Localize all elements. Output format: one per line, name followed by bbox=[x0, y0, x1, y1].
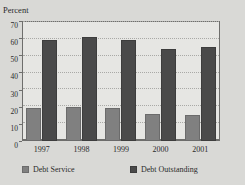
bar-group bbox=[22, 21, 62, 141]
bar bbox=[105, 108, 120, 141]
bar bbox=[185, 115, 200, 141]
bar bbox=[161, 49, 176, 141]
cropped-title bbox=[0, 0, 245, 2]
bar bbox=[145, 114, 160, 141]
x-tick-label: 1999 bbox=[101, 145, 141, 154]
y-axis-title: Percent bbox=[3, 5, 29, 15]
legend-label: Debt Service bbox=[33, 165, 75, 174]
legend-item: Debt Outstanding bbox=[130, 165, 198, 174]
legend-label: Debt Outstanding bbox=[141, 165, 198, 174]
x-axis-tick-labels: 19971998199920002001 bbox=[22, 145, 220, 154]
bar bbox=[201, 47, 216, 141]
chart-legend: Debt ServiceDebt Outstanding bbox=[22, 165, 232, 174]
bar-group bbox=[101, 21, 141, 141]
bar bbox=[82, 37, 97, 141]
legend-swatch-icon bbox=[22, 166, 29, 173]
bar-group bbox=[180, 21, 220, 141]
bar-groups bbox=[22, 21, 220, 141]
x-tick-label: 1998 bbox=[62, 145, 102, 154]
bar-group bbox=[141, 21, 181, 141]
bar bbox=[42, 40, 57, 141]
legend-swatch-icon bbox=[130, 166, 137, 173]
bar bbox=[66, 107, 81, 141]
chart-figure: Percent 010203040506070 1997199819992000… bbox=[0, 0, 245, 185]
x-tick-label: 2001 bbox=[180, 145, 220, 154]
legend-item: Debt Service bbox=[22, 165, 130, 174]
bar bbox=[121, 40, 136, 141]
y-axis-tick-labels: 010203040506070 bbox=[0, 21, 22, 141]
x-tick-label: 2000 bbox=[141, 145, 181, 154]
bar-group bbox=[62, 21, 102, 141]
y-tick-mark bbox=[19, 141, 22, 142]
bar bbox=[26, 108, 41, 141]
x-tick-label: 1997 bbox=[22, 145, 62, 154]
